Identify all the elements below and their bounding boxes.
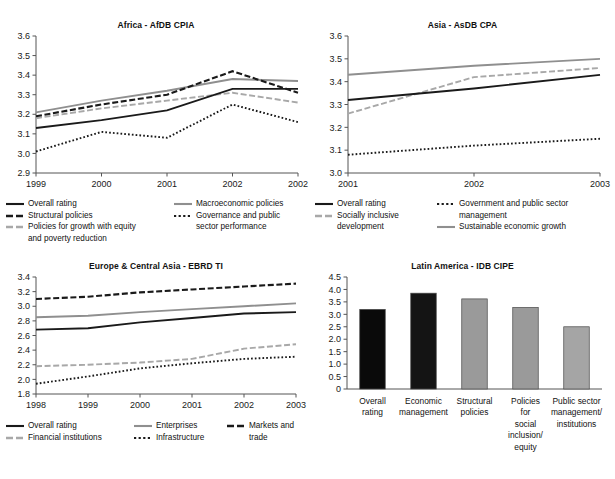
- chart-legend-europe: Overall ratingFinancial institutionsEnte…: [6, 420, 306, 443]
- legend-item: Markets and trade: [227, 420, 305, 443]
- y-tick-label: 1.5: [328, 347, 341, 357]
- legend-swatch-dot-black-icon: [437, 198, 455, 210]
- y-tick-label: 3.0: [17, 301, 30, 311]
- bar: [462, 299, 488, 389]
- legend-label: Government and public sector management: [459, 198, 568, 221]
- y-tick-label: 0.5: [328, 372, 341, 382]
- legend-label: Markets and trade: [249, 420, 294, 443]
- legend-swatch-dash-gray-icon: [315, 210, 333, 222]
- legend-label: Macroeconomic policies: [196, 198, 283, 210]
- legend-swatch-dash-gray-icon: [6, 221, 24, 233]
- y-tick-label: 4.0: [328, 285, 341, 295]
- cut-off-caption: Figure 1 Average country policy and inst…: [0, 0, 615, 5]
- bar-category-labels: Overall ratingEconomic managementStructu…: [315, 395, 610, 479]
- legend-row: Overall ratingSocially inclusive develop…: [315, 198, 610, 233]
- series-line: [348, 75, 600, 100]
- chart-panel-asia: Asia - AsDB CPA 3.03.13.23.33.43.53.6200…: [315, 20, 610, 255]
- y-tick-label: 3.5: [17, 51, 30, 61]
- legend-item: Overall rating: [6, 420, 134, 432]
- legend-item: Overall rating: [315, 198, 437, 210]
- plot-area-europe: 1.82.02.22.42.62.83.03.23.41998199920002…: [6, 271, 306, 414]
- legend-column: Macroeconomic policiesGovernance and pub…: [174, 198, 304, 233]
- y-tick-label: 2.9: [17, 168, 30, 178]
- legend-label: Overall rating: [337, 198, 386, 210]
- x-tick-label: 2002: [288, 179, 308, 189]
- x-tick-label: 2001: [157, 179, 177, 189]
- legend-swatch-solid-gray-icon: [437, 221, 455, 233]
- y-tick-label: 3.4: [329, 77, 342, 87]
- chart-legend-africa: Overall ratingStructural policiesPolicie…: [6, 198, 306, 244]
- bar: [513, 307, 539, 389]
- x-tick-label: 1999: [26, 179, 46, 189]
- legend-swatch-solid-black-icon: [315, 198, 333, 210]
- legend-swatch-solid-gray-icon: [134, 420, 152, 432]
- plot-area-asia: 3.03.13.23.33.43.53.6200120022003: [315, 30, 610, 193]
- legend-swatch-dot-black-icon: [134, 432, 152, 444]
- x-tick-label: 1998: [26, 400, 46, 410]
- series-line: [36, 284, 296, 299]
- x-tick-label: 1999: [78, 400, 98, 410]
- chart-title-latin-america: Latin America - IDB CIPE: [315, 261, 610, 271]
- chart-svg-latin: 00.51.01.52.02.53.03.54.04.5: [315, 271, 610, 395]
- legend-item: Financial institutions: [6, 432, 134, 444]
- y-tick-label: 3.0: [329, 168, 342, 178]
- legend-column: Markets and trade: [227, 420, 305, 443]
- legend-item: Government and public sector management: [437, 198, 607, 221]
- plot-area-africa: 2.93.03.13.23.33.43.53.61999200020012002…: [6, 30, 306, 193]
- legend-label: Sustainable economic growth: [459, 221, 566, 233]
- chart-legend-asia: Overall ratingSocially inclusive develop…: [315, 198, 610, 233]
- y-tick-label: 3.5: [329, 54, 342, 64]
- y-tick-label: 3.3: [329, 100, 342, 110]
- series-line: [348, 139, 600, 155]
- plot-area-latin-america: 00.51.01.52.02.53.03.54.04.5Overall rati…: [315, 271, 610, 479]
- bar: [564, 327, 590, 389]
- legend-label: Policies for growth with equity and pove…: [28, 221, 136, 244]
- chart-title-africa: Africa - AfDB CPIA: [6, 20, 306, 30]
- legend-label: Overall rating: [28, 420, 77, 432]
- legend-column: Overall ratingSocially inclusive develop…: [315, 198, 437, 233]
- y-tick-label: 4.5: [328, 272, 341, 282]
- x-tick-label: 2003: [590, 179, 610, 189]
- legend-item: Overall rating: [6, 198, 174, 210]
- legend-label: Enterprises: [156, 420, 197, 432]
- series-line: [348, 68, 600, 114]
- x-tick-label: 2000: [130, 400, 150, 410]
- series-line: [36, 312, 296, 330]
- legend-label: Socially inclusive development: [337, 210, 399, 233]
- x-tick-label: 2001: [338, 179, 358, 189]
- legend-label: Overall rating: [28, 198, 77, 210]
- chart-svg-africa: 2.93.03.13.23.33.43.53.61999200020012002…: [6, 30, 306, 193]
- legend-swatch-dash-black-icon: [227, 420, 245, 432]
- y-tick-label: 1.8: [17, 389, 30, 399]
- y-tick-label: 3.4: [17, 70, 30, 80]
- legend-item: Structural policies: [6, 210, 174, 222]
- y-tick-label: 3.0: [328, 310, 341, 320]
- y-tick-label: 2.4: [17, 345, 30, 355]
- y-tick-label: 3.2: [329, 123, 342, 133]
- series-line: [348, 59, 600, 75]
- y-tick-label: 3.0: [17, 149, 30, 159]
- chart-panel-latin-america: Latin America - IDB CIPE 00.51.01.52.02.…: [315, 261, 610, 476]
- y-tick-label: 3.2: [17, 109, 30, 119]
- legend-swatch-dash-black-icon: [6, 210, 24, 222]
- legend-label: Structural policies: [28, 210, 93, 222]
- y-tick-label: 2.5: [328, 322, 341, 332]
- y-tick-label: 2.6: [17, 331, 30, 341]
- chart-svg-europe: 1.82.02.22.42.62.83.03.23.41998199920002…: [6, 271, 306, 414]
- chart-title-europe: Europe & Central Asia - EBRD TI: [6, 261, 306, 271]
- bar-category-label: Public sector management/ institutions: [537, 396, 615, 430]
- y-tick-label: 3.1: [17, 129, 30, 139]
- legend-row: Overall ratingStructural policiesPolicie…: [6, 198, 306, 244]
- legend-column: EnterprisesInfrastructure: [134, 420, 227, 443]
- y-tick-label: 3.2: [17, 287, 30, 297]
- x-tick-label: 2002: [234, 400, 254, 410]
- y-tick-label: 3.4: [17, 272, 30, 282]
- legend-label: Infrastructure: [156, 432, 204, 444]
- series-line: [36, 303, 296, 317]
- legend-swatch-solid-black-icon: [6, 420, 24, 432]
- legend-label: Financial institutions: [28, 432, 102, 444]
- chart-panel-europe: Europe & Central Asia - EBRD TI 1.82.02.…: [6, 261, 306, 471]
- chart-svg-asia: 3.03.13.23.33.43.53.6200120022003: [315, 30, 610, 193]
- legend-item: Socially inclusive development: [315, 210, 437, 233]
- legend-row: Overall ratingFinancial institutionsEnte…: [6, 420, 306, 443]
